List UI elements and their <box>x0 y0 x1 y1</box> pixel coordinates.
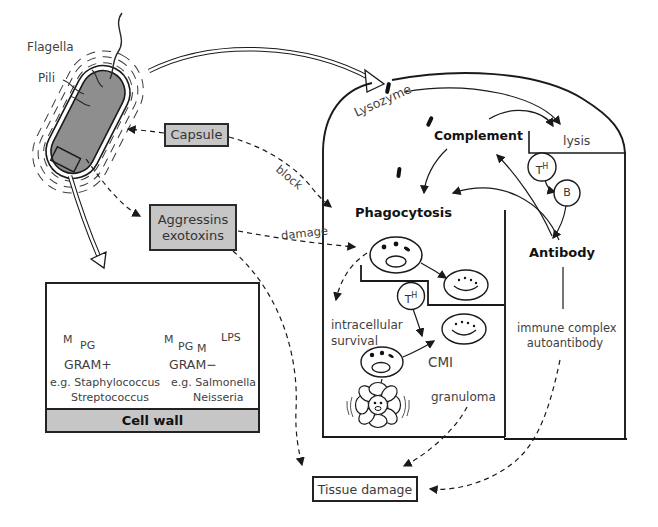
cmi-label: CMI <box>428 355 453 369</box>
gram-negative-example2: Neisseria <box>193 391 244 404</box>
arrow-capsule-to-bacterium <box>128 129 164 133</box>
gram-negative-title: GRAM− <box>169 357 217 372</box>
aggressins-box: Aggressins exotoxins <box>149 204 237 251</box>
granuloma-label: granuloma <box>431 390 496 404</box>
intracellular-survival-label: intracellular survival <box>331 317 403 349</box>
arrow-th-to-b <box>545 180 555 192</box>
cell-wall-title: Cell wall <box>122 413 184 428</box>
survivor-phagocyte-icon <box>361 347 403 377</box>
arrow-phagocyte-to-digested <box>421 263 446 278</box>
gram-pos-pg-label: PG <box>80 339 95 352</box>
gram-neg-pg-label: PG <box>178 340 193 353</box>
arrow-th-to-cmi <box>413 309 422 336</box>
immunology-diagram: Capsule Aggressins exotoxins Cell wall T… <box>0 0 658 527</box>
capsule-box: Capsule <box>164 123 229 147</box>
gram-negative-example1: e.g. Salmonella <box>171 376 256 389</box>
arrow-antibody-to-phagocytosis <box>453 188 559 240</box>
aggressins-label-line1: Aggressins <box>158 212 229 228</box>
immune-complex-label: immune complex autoantibody <box>517 321 613 351</box>
lysis-label: lysis <box>563 134 590 148</box>
phagocyte-face-icon <box>370 237 422 273</box>
arrow-complement-to-lysis <box>489 110 553 126</box>
entry-arrow-icon <box>149 49 384 92</box>
arrow-b-to-antibody <box>553 206 566 238</box>
cell-wall-zoom-arrow-icon <box>70 176 106 268</box>
cmi-activated-cell-icon <box>442 314 486 344</box>
gram-neg-m-outer-label: M <box>164 333 174 346</box>
granuloma-icon <box>347 383 409 428</box>
arrow-immune-complex-to-tissue-damage <box>430 360 560 489</box>
flagella-label: Flagella <box>27 40 74 54</box>
diagram-line-art <box>0 0 658 527</box>
b-cell-label: B <box>560 186 574 200</box>
phagocytosis-label: Phagocytosis <box>355 206 452 220</box>
lymphocyte-circles <box>398 153 581 310</box>
arrow-lysozyme-to-lysis <box>404 88 560 124</box>
digested-cell-icon <box>444 270 488 300</box>
gram-positive-example1: e.g. Staphylococcus <box>50 376 160 389</box>
tissue-damage-box: Tissue damage <box>312 476 418 502</box>
gram-pos-m-label: M <box>63 333 73 346</box>
th-cell-label-lower: TH <box>401 289 421 307</box>
gram-positive-example2: Streptococcus <box>71 391 149 404</box>
arrow-complement-to-phagocytosis <box>424 149 447 193</box>
antibody-label: Antibody <box>529 246 595 260</box>
tissue-damage-label: Tissue damage <box>318 482 412 497</box>
th-cell-label-top: TH <box>532 160 552 178</box>
pili-label: Pili <box>38 71 55 85</box>
gram-neg-lps-label: LPS <box>221 331 241 344</box>
arrow-to-intracellular-survival <box>336 253 367 300</box>
complement-label: Complement <box>434 129 523 143</box>
cell-wall-title-band: Cell wall <box>45 408 260 433</box>
gram-positive-title: GRAM+ <box>64 357 112 372</box>
gram-neg-m-inner-label: M <box>197 342 207 355</box>
aggressins-label-line2: exotoxins <box>162 228 224 244</box>
capsule-label: Capsule <box>171 127 223 143</box>
